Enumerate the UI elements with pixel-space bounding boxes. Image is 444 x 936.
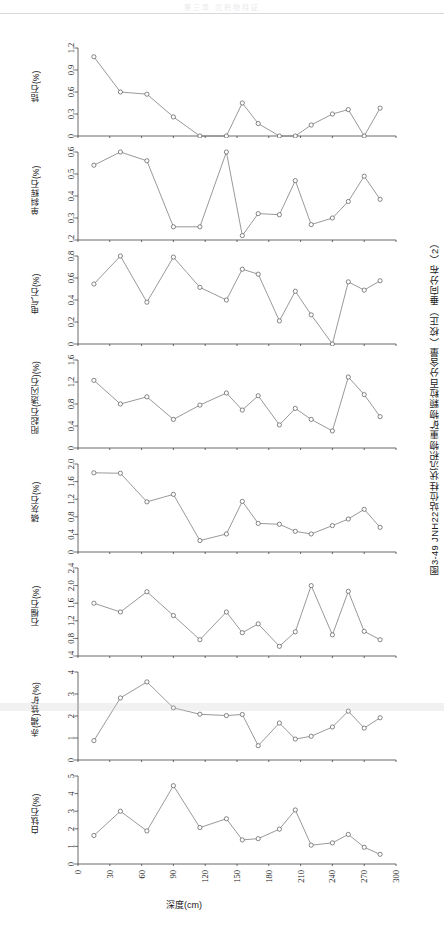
y-tick-label: 1 — [66, 736, 76, 740]
data-point-marker — [92, 739, 96, 743]
data-point-marker — [240, 101, 244, 105]
data-point-marker — [293, 134, 297, 138]
data-point-marker — [362, 629, 366, 633]
data-point-marker — [198, 403, 202, 407]
data-point-marker — [330, 342, 334, 346]
data-point-marker — [277, 319, 281, 323]
data-point-marker — [92, 833, 96, 837]
plot-area-clinopyroxene: 0.20.30.40.50.6 — [52, 146, 402, 242]
x-tick-label: 120 — [200, 870, 210, 883]
y-tick-label: 0.4 — [66, 420, 76, 431]
y-tick-label: 1.6 — [66, 355, 76, 366]
data-point-marker — [145, 829, 149, 833]
data-point-marker — [309, 313, 313, 317]
data-point-marker — [92, 163, 96, 167]
x-tick-label: 210 — [296, 870, 306, 883]
y-tick-label: 0 — [66, 862, 76, 866]
data-point-marker — [362, 134, 366, 138]
x-tick-label: 180 — [264, 870, 274, 883]
data-point-marker — [330, 112, 334, 116]
y-tick-label: 0.3 — [66, 109, 76, 120]
data-point-marker — [378, 106, 382, 110]
data-point-marker — [198, 225, 202, 229]
data-series-line — [94, 256, 380, 344]
plot-wrapper-actinolite-tremolite: 00.40.81.21.6 — [52, 354, 402, 450]
y-axis-label-zircon: 锆石(%) — [30, 42, 42, 130]
data-point-marker — [198, 134, 202, 138]
data-point-marker — [277, 644, 281, 648]
y-tick-label: 0 — [66, 446, 76, 450]
data-point-marker — [277, 827, 281, 831]
data-point-marker — [309, 532, 313, 536]
data-point-marker — [309, 734, 313, 738]
data-point-marker — [198, 638, 202, 642]
data-series-line — [94, 152, 380, 236]
data-point-marker — [256, 121, 260, 125]
data-point-marker — [92, 601, 96, 605]
plot-area-apatite: 00.40.81.21.62.0 — [52, 458, 402, 554]
data-point-marker — [362, 174, 366, 178]
data-point-marker — [256, 521, 260, 525]
y-axis-label-leucoxene: 白钛石(%) — [30, 770, 42, 858]
data-point-marker — [256, 744, 260, 748]
data-point-marker — [346, 832, 350, 836]
data-point-marker — [118, 696, 122, 700]
plot-area-tourmaline: 00.20.40.60.8 — [52, 250, 402, 346]
data-point-marker — [362, 507, 366, 511]
data-point-marker — [198, 825, 202, 829]
y-axis-label-actinolite-tremolite: 阳起石(透闪石)(%) — [30, 354, 42, 442]
y-tick-label: 0 — [66, 342, 76, 346]
data-point-marker — [224, 532, 228, 536]
data-series-line — [94, 682, 380, 746]
x-tick-label: 60 — [137, 870, 147, 879]
data-point-marker — [198, 712, 202, 716]
data-point-marker — [198, 538, 202, 542]
data-point-marker — [346, 280, 350, 284]
y-tick-label: 0.8 — [66, 251, 76, 262]
data-point-marker — [293, 406, 297, 410]
y-axis-label-hematite-limonite: 赤(褐)铁矿(%) — [30, 666, 42, 754]
y-tick-label: 0.8 — [66, 399, 76, 410]
data-point-marker — [145, 159, 149, 163]
plot-wrapper-leucoxene: 012345 — [52, 770, 402, 866]
data-point-marker — [224, 713, 228, 717]
plot-wrapper-hematite-limonite: 01234 — [52, 666, 402, 762]
y-tick-label: 0.2 — [66, 317, 76, 328]
y-tick-label: 0.4 — [66, 650, 76, 658]
y-tick-label: 0.4 — [66, 294, 76, 305]
data-series-line — [94, 786, 380, 855]
y-tick-label: 0.6 — [66, 87, 76, 98]
data-point-marker — [378, 415, 382, 419]
data-point-marker — [118, 150, 122, 154]
data-point-marker — [330, 216, 334, 220]
plot-wrapper-garnet: 0.40.81.21.62.02.4 — [52, 562, 402, 658]
data-point-marker — [378, 852, 382, 856]
page-header: 第三章 沉积物特征 — [0, 0, 444, 14]
data-point-marker — [378, 279, 382, 283]
y-tick-label: 1 — [66, 844, 76, 848]
y-tick-label: 0 — [66, 550, 76, 554]
data-point-marker — [256, 394, 260, 398]
plot-wrapper-clinopyroxene: 0.20.30.40.50.6 — [52, 146, 402, 242]
data-point-marker — [346, 108, 350, 112]
plot-wrapper-apatite: 00.40.81.21.62.0 — [52, 458, 402, 554]
data-point-marker — [92, 471, 96, 475]
plot-wrapper-tourmaline: 00.20.40.60.8 — [52, 250, 402, 346]
data-point-marker — [145, 92, 149, 96]
data-point-marker — [224, 610, 228, 614]
data-point-marker — [362, 845, 366, 849]
data-point-marker — [346, 199, 350, 203]
y-axis-label-clinopyroxene: 单斜辉石(%) — [30, 146, 42, 234]
y-tick-label: 0.4 — [66, 528, 76, 539]
x-tick-label: 150 — [232, 870, 242, 883]
plot-area-garnet: 0.40.81.21.62.02.4 — [52, 562, 402, 658]
data-point-marker — [224, 134, 228, 138]
y-tick-label: 2 — [66, 827, 76, 831]
data-point-marker — [362, 288, 366, 292]
data-point-marker — [240, 838, 244, 842]
data-point-marker — [362, 726, 366, 730]
data-point-marker — [171, 706, 175, 710]
plot-area-leucoxene: 012345 — [52, 770, 402, 866]
plot-area-hematite-limonite: 01234 — [52, 666, 402, 762]
data-point-marker — [378, 638, 382, 642]
